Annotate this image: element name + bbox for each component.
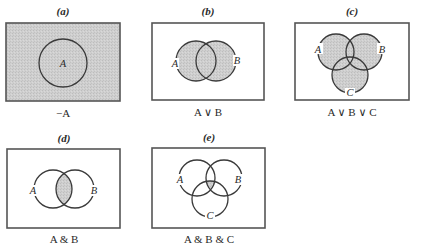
panel-b-caption: A ∨ B (194, 106, 222, 118)
panel-d: (d) A B A & B (7, 132, 120, 245)
panel-b-heading: (b) (202, 5, 215, 18)
panel-e-caption: A & B & C (184, 233, 234, 245)
circle-b-label: B (234, 55, 241, 66)
circle-b-label: B (235, 174, 242, 185)
circle-a-label: A (176, 174, 184, 185)
panel-d-caption: A & B (50, 233, 79, 245)
circle-b-label: B (91, 185, 98, 196)
panel-c-caption: A ∨ B ∨ C (327, 106, 376, 118)
circle-c-label: C (206, 210, 214, 221)
panel-a-caption: −A (56, 107, 70, 119)
panel-d-heading: (d) (58, 132, 71, 145)
venn-diagram-figure: (a) A −A (b) A B A ∨ B (c) A B C A ∨ (0, 0, 421, 248)
panel-c: (c) A B C A ∨ B ∨ C (295, 5, 409, 118)
panel-e-heading: (e) (203, 131, 215, 144)
circle-a-label: A (314, 44, 322, 55)
panel-b: (b) A B A ∨ B (152, 5, 264, 118)
circle-a-label: A (29, 185, 37, 196)
circle-b-label: B (379, 44, 386, 55)
panel-a: (a) A −A (6, 5, 120, 119)
circle-a-label: A (171, 58, 179, 69)
circle-a-label: A (59, 58, 67, 69)
panel-c-heading: (c) (346, 5, 358, 18)
circle-c-label: C (346, 87, 354, 98)
panel-e: (e) A B C A & B & C (152, 131, 265, 245)
panel-a-heading: (a) (57, 5, 70, 18)
